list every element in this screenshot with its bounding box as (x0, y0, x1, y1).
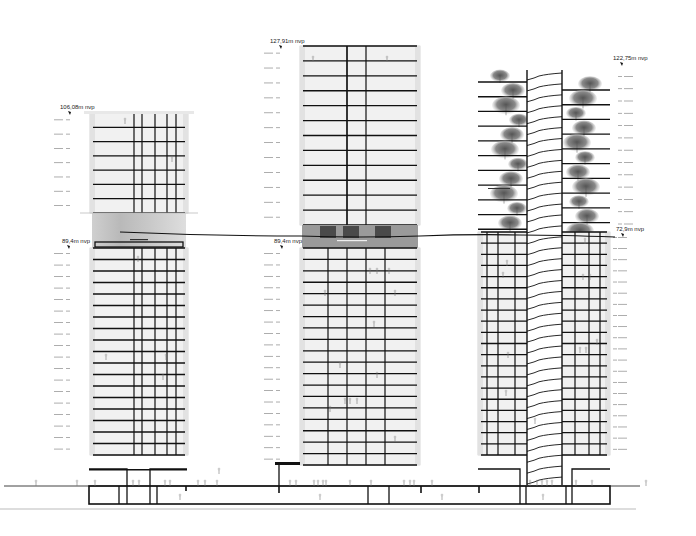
facade-right (415, 248, 420, 465)
person-figure (76, 480, 78, 482)
restaurant-label (337, 240, 367, 241)
floor-label (264, 436, 273, 437)
floor-label (276, 367, 280, 368)
floor-label (624, 199, 633, 200)
floor-label (618, 449, 627, 450)
floor-label (264, 287, 273, 288)
floor-label (66, 191, 70, 192)
floor-label (613, 371, 617, 372)
person-figure (197, 480, 199, 482)
floor-label (66, 322, 70, 323)
floor-label (66, 449, 70, 450)
person-figure (204, 480, 206, 482)
floor-label (276, 402, 280, 403)
floor-label (276, 265, 280, 266)
floor-label (54, 322, 63, 323)
floor-label (276, 97, 280, 98)
floor-label (264, 202, 273, 203)
floor-label (618, 282, 627, 283)
person-figure (164, 480, 166, 482)
floor-label (613, 449, 617, 450)
floor-label (54, 391, 63, 392)
person-figure (295, 480, 297, 482)
floor-label (66, 380, 70, 381)
pool-amenity-level (92, 213, 186, 248)
floor-label (66, 357, 70, 358)
floor-label (618, 125, 622, 126)
floor-block (300, 248, 420, 465)
floor-label (264, 172, 273, 173)
floor-label (66, 437, 70, 438)
floor-label (54, 276, 63, 277)
person-figure (575, 480, 577, 482)
tower-left (54, 111, 198, 455)
floor-label (624, 113, 633, 114)
floor-label (624, 76, 633, 77)
person-figure (317, 480, 319, 482)
floor-label (66, 148, 70, 149)
floor-label (66, 119, 70, 120)
svg-text:72,9m nvp: 72,9m nvp (616, 226, 645, 232)
svg-text:89,4m nvp: 89,4m nvp (62, 238, 91, 244)
floor-label (66, 403, 70, 404)
person-figure (132, 480, 134, 482)
floor-label (618, 211, 622, 212)
floor-label (54, 449, 63, 450)
floor-label (264, 402, 273, 403)
right-tower-base (478, 469, 520, 486)
floor-label (54, 177, 63, 178)
floor-label (276, 447, 280, 448)
floor-label (624, 224, 633, 225)
architectural-section-drawing: 106,08m nvp 89,4m nvp 127,91m nvp 89,4m … (0, 0, 696, 536)
floor-label (276, 333, 280, 334)
floor-label (66, 299, 70, 300)
floor-label (54, 357, 63, 358)
person-figure (403, 480, 405, 482)
floor-label (276, 187, 280, 188)
floor-label (66, 391, 70, 392)
floor-label (66, 288, 70, 289)
right-tower-base (572, 469, 610, 486)
floor-label (264, 127, 273, 128)
floor-label (613, 293, 617, 294)
floor-label (66, 276, 70, 277)
floor-label (618, 349, 627, 350)
floor-label (618, 162, 622, 163)
floor-label (54, 345, 63, 346)
garden-label (488, 188, 510, 189)
person-figure (431, 480, 433, 482)
floor-label (264, 265, 273, 266)
floor-label (54, 380, 63, 381)
person-figure (313, 480, 315, 482)
person-figure (319, 494, 321, 496)
floor-label (66, 177, 70, 178)
elevation-label-left-mid: 89,4m nvp (62, 238, 91, 249)
svg-text:127,91m nvp: 127,91m nvp (270, 38, 305, 44)
floor-label (54, 426, 63, 427)
person-figure (413, 480, 415, 482)
floor-label (264, 83, 273, 84)
floor-label (618, 304, 627, 305)
floor-label (613, 282, 617, 283)
floor-label (264, 367, 273, 368)
person-figure (35, 480, 37, 482)
floor-label (54, 119, 63, 120)
floor-label (618, 337, 627, 338)
floor-label (66, 162, 70, 163)
floor-label (264, 97, 273, 98)
floor-label (264, 390, 273, 391)
floor-label (618, 199, 622, 200)
person-figure (218, 468, 220, 470)
stair-ramp (527, 477, 562, 484)
floor-label (613, 315, 617, 316)
floor-label (54, 191, 63, 192)
floor-label (276, 172, 280, 173)
floor-label (613, 415, 617, 416)
person-figure (591, 480, 593, 482)
floor-label (264, 310, 273, 311)
floor-label (276, 112, 280, 113)
floor-label (276, 413, 280, 414)
floor-label (276, 424, 280, 425)
floor-label (66, 205, 70, 206)
floor-label (618, 293, 627, 294)
